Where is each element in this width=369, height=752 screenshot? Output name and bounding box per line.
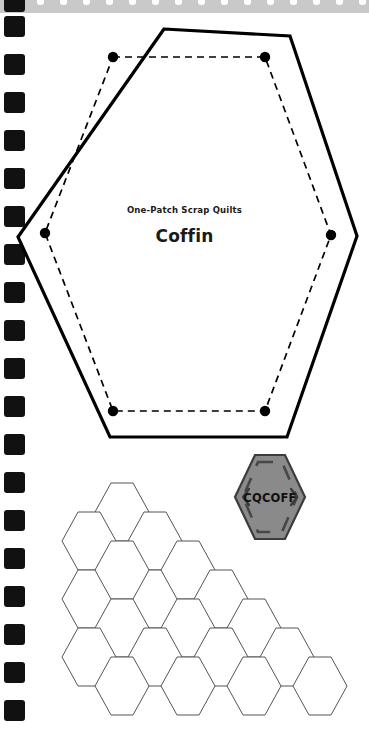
binding-hole (4, 624, 25, 645)
binding-top-dot (152, 0, 159, 5)
binding-top-dot (198, 0, 205, 5)
binding-hole (4, 396, 25, 417)
tessellation-hexagon (95, 657, 149, 715)
binding-top-dot (60, 0, 67, 5)
tessellation-hexagon (293, 657, 347, 715)
template-subtitle: One-Patch Scrap Quilts (0, 205, 369, 215)
binding-hole (4, 472, 25, 493)
binding-top-dot (359, 0, 366, 5)
tessellation-hexagon (62, 570, 116, 628)
binding-hole (4, 130, 25, 151)
badge-code-label: CQCOFF (234, 491, 306, 505)
binding-hole (4, 434, 25, 455)
tessellation-hexagon (62, 628, 116, 686)
binding-hole (4, 282, 25, 303)
binding-hole (4, 16, 25, 37)
binding-hole (4, 510, 25, 531)
binding-top-dot (106, 0, 113, 5)
binding-hole (4, 548, 25, 569)
binding-top-dot (175, 0, 182, 5)
binding-top-dot (313, 0, 320, 5)
binding-top-dot (129, 0, 136, 5)
tessellation-hexagon (128, 570, 182, 628)
template-vertex-dot (260, 52, 270, 62)
binding-hole (4, 92, 25, 113)
template-title: Coffin (0, 226, 369, 246)
hexagon-tessellation (62, 483, 347, 715)
tessellation-hexagon (194, 570, 248, 628)
tessellation-hexagon (161, 657, 215, 715)
binding-hole (4, 0, 25, 12)
scanned-page: One-Patch Scrap Quilts Coffin CQCOFF (0, 0, 369, 752)
tessellation-hexagon (227, 599, 281, 657)
tessellation-hexagon (95, 541, 149, 599)
binding-hole (4, 586, 25, 607)
binding-top-dot (244, 0, 251, 5)
tessellation-hexagon (260, 628, 314, 686)
binding-hole (4, 168, 25, 189)
binding-hole (4, 54, 25, 75)
tessellation-hexagon (95, 599, 149, 657)
binding-top-dot (336, 0, 343, 5)
binding-hole (4, 700, 25, 721)
binding-hole (4, 244, 25, 265)
page-artwork (0, 0, 369, 752)
template-vertex-dot (260, 406, 270, 416)
binding-top-dot (290, 0, 297, 5)
binding-hole (4, 662, 25, 683)
binding-top-dot (267, 0, 274, 5)
binding-top-dot (37, 0, 44, 5)
binding-top-dot (221, 0, 228, 5)
tessellation-hexagon (95, 483, 149, 541)
binding-hole (4, 320, 25, 341)
tessellation-hexagon (227, 657, 281, 715)
tessellation-hexagon (194, 628, 248, 686)
tessellation-hexagon (128, 512, 182, 570)
template-vertex-dot (108, 406, 118, 416)
tessellation-hexagon (161, 541, 215, 599)
tessellation-hexagon (62, 512, 116, 570)
binding-top-dot (83, 0, 90, 5)
binding-hole (4, 358, 25, 379)
tessellation-hexagon (128, 628, 182, 686)
template-vertex-dot (108, 52, 118, 62)
tessellation-hexagon (161, 599, 215, 657)
